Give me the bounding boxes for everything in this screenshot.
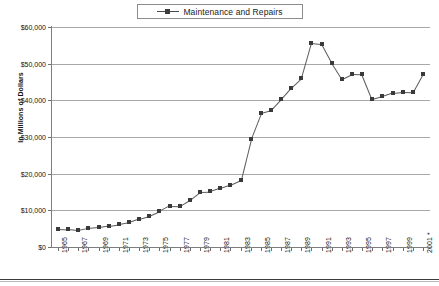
data-point-marker bbox=[380, 94, 384, 98]
legend-label: Maintenance and Repairs bbox=[183, 7, 282, 17]
data-point-marker bbox=[56, 227, 60, 231]
data-point-marker bbox=[127, 220, 131, 224]
data-point-marker bbox=[137, 217, 141, 221]
footer-rule-light bbox=[0, 281, 439, 282]
x-tick-mark bbox=[271, 248, 272, 251]
data-point-marker bbox=[147, 214, 151, 218]
plot-area bbox=[51, 27, 430, 247]
x-tick-mark bbox=[180, 248, 181, 251]
x-tick-label: 1999 bbox=[406, 237, 413, 253]
x-axis-line bbox=[51, 247, 431, 248]
x-tick-label: 1971 bbox=[122, 237, 129, 253]
x-tick-mark bbox=[301, 248, 302, 251]
data-point-marker bbox=[279, 97, 283, 101]
data-point-marker bbox=[411, 90, 415, 94]
y-tick-label: $20,000 bbox=[2, 171, 46, 178]
x-tick-mark bbox=[311, 248, 312, 251]
x-tick-mark bbox=[403, 248, 404, 251]
x-tick-mark bbox=[281, 248, 282, 251]
x-tick-mark bbox=[170, 248, 171, 251]
x-tick-mark bbox=[413, 248, 414, 251]
y-tick-label: $40,000 bbox=[2, 97, 46, 104]
x-tick-mark bbox=[149, 248, 150, 251]
x-tick-label: 1989 bbox=[304, 237, 311, 253]
data-point-marker bbox=[350, 72, 354, 76]
x-tick-mark bbox=[129, 248, 130, 251]
x-tick-mark bbox=[372, 248, 373, 251]
y-tick-label: $10,000 bbox=[2, 207, 46, 214]
x-tick-label: 1983 bbox=[244, 237, 251, 253]
data-point-marker bbox=[360, 72, 364, 76]
x-tick-mark bbox=[291, 248, 292, 251]
data-point-marker bbox=[239, 178, 243, 182]
x-tick-mark bbox=[261, 248, 262, 251]
x-tick-mark bbox=[342, 248, 343, 251]
x-tick-mark bbox=[210, 248, 211, 251]
x-tick-label: 1981 bbox=[223, 237, 230, 253]
data-point-marker bbox=[391, 91, 395, 95]
x-tick-mark bbox=[88, 248, 89, 251]
data-point-marker bbox=[421, 72, 425, 76]
x-tick-mark bbox=[99, 248, 100, 251]
y-tick-label: $0 bbox=[2, 244, 46, 251]
x-tick-mark bbox=[78, 248, 79, 251]
x-tick-mark bbox=[190, 248, 191, 251]
data-point-marker bbox=[269, 108, 273, 112]
data-point-marker bbox=[218, 186, 222, 190]
x-tick-mark bbox=[139, 248, 140, 251]
x-tick-mark bbox=[58, 248, 59, 251]
x-tick-label: 1969 bbox=[102, 237, 109, 253]
x-tick-mark bbox=[200, 248, 201, 251]
data-point-marker bbox=[228, 183, 232, 187]
data-point-marker bbox=[178, 204, 182, 208]
x-tick-label: 1979 bbox=[203, 237, 210, 253]
x-tick-label: 1995 bbox=[365, 237, 372, 253]
data-point-marker bbox=[97, 225, 101, 229]
data-point-marker bbox=[168, 204, 172, 208]
x-tick-mark bbox=[230, 248, 231, 251]
gridline bbox=[51, 64, 430, 65]
legend-marker-icon bbox=[157, 7, 179, 16]
x-tick-mark bbox=[362, 248, 363, 251]
gridline bbox=[51, 210, 430, 211]
x-tick-label: 1985 bbox=[264, 237, 271, 253]
y-tick-label: $60,000 bbox=[2, 24, 46, 31]
data-point-marker bbox=[340, 77, 344, 81]
data-point-marker bbox=[208, 189, 212, 193]
data-point-marker bbox=[86, 226, 90, 230]
series-line-segment bbox=[301, 43, 312, 79]
x-tick-mark bbox=[332, 248, 333, 251]
data-point-marker bbox=[66, 227, 70, 231]
series-line-segment bbox=[361, 74, 372, 99]
data-point-marker bbox=[107, 224, 111, 228]
gridline bbox=[51, 174, 430, 175]
chart-legend: Maintenance and Repairs bbox=[137, 4, 303, 19]
x-tick-label: 1973 bbox=[142, 237, 149, 253]
x-tick-mark bbox=[159, 248, 160, 251]
x-tick-mark bbox=[352, 248, 353, 251]
x-tick-mark bbox=[423, 248, 424, 251]
data-point-marker bbox=[157, 209, 161, 213]
footer-rule bbox=[0, 279, 439, 280]
y-tick-label: $30,000 bbox=[2, 134, 46, 141]
y-axis-line bbox=[51, 26, 52, 248]
x-tick-label: 2001 * bbox=[426, 232, 433, 253]
x-tick-label: 1975 bbox=[162, 237, 169, 253]
data-point-marker bbox=[249, 137, 253, 141]
data-point-marker bbox=[309, 41, 313, 45]
data-point-marker bbox=[289, 86, 293, 90]
x-tick-mark bbox=[251, 248, 252, 251]
x-tick-mark bbox=[109, 248, 110, 251]
x-tick-mark bbox=[220, 248, 221, 251]
x-tick-mark bbox=[68, 248, 69, 251]
chart-figure: In Millions of Dollars Maintenance and R… bbox=[0, 0, 439, 286]
series-line-segment bbox=[251, 113, 262, 139]
gridline bbox=[51, 27, 430, 28]
x-tick-mark bbox=[241, 248, 242, 251]
data-point-marker bbox=[76, 228, 80, 232]
x-tick-label: 1993 bbox=[345, 237, 352, 253]
data-point-marker bbox=[198, 190, 202, 194]
x-tick-mark bbox=[382, 248, 383, 251]
y-tick-label: $50,000 bbox=[2, 61, 46, 68]
x-tick-label: 1977 bbox=[183, 237, 190, 253]
